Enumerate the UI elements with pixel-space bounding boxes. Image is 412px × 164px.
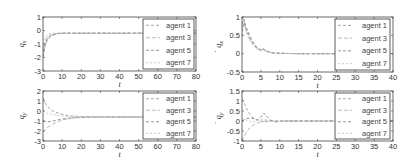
panel-qy: 01020304050607080210-1-2-3tqyagent 1agen… — [17, 87, 200, 159]
y-tick-label: -3 — [34, 67, 41, 76]
x-tick-label: 20 — [77, 142, 85, 151]
x-tick-label: 10 — [276, 142, 284, 151]
legend-entry: agent 1 — [362, 94, 387, 103]
legend-entry: agent 5 — [166, 46, 191, 55]
x-tick-label: 15 — [294, 142, 302, 151]
legend-entry: agent 1 — [362, 21, 387, 30]
x-axis-label: t — [118, 150, 121, 159]
y-tick-label: 1 — [37, 13, 41, 22]
panel-qy-dot: 05101520253035401.510.50-0.5-1tqy·agent … — [211, 87, 397, 159]
legend-entry: agent 3 — [362, 106, 387, 115]
legend-entry: agent 7 — [362, 129, 387, 138]
figure: 0102030405060708010-1-2-3tqxagent 1agent… — [0, 0, 412, 164]
x-tick-label: 35 — [370, 73, 378, 82]
x-tick-label: 0 — [240, 73, 244, 82]
y-tick-label: -1 — [34, 40, 41, 49]
y-tick-label: 2 — [37, 87, 41, 96]
derivative-dot: · — [211, 122, 220, 124]
y-tick-label: 0 — [236, 49, 240, 58]
x-axis-label: t — [316, 81, 319, 90]
legend: agent 1agent 3agent 5agent 7 — [335, 93, 390, 139]
x-tick-label: 70 — [173, 72, 181, 81]
x-tick-label: 60 — [154, 72, 162, 81]
x-axis-label: t — [316, 150, 319, 159]
x-tick-label: 40 — [389, 73, 397, 82]
x-tick-label: 10 — [58, 142, 66, 151]
x-tick-label: 5 — [259, 142, 263, 151]
y-tick-label: 1.5 — [230, 87, 240, 96]
x-tick-label: 20 — [77, 72, 85, 81]
y-tick-label: -2 — [34, 53, 41, 62]
legend-entry: agent 5 — [362, 46, 387, 55]
legend-entry: agent 1 — [166, 94, 191, 103]
legend-entry: agent 7 — [362, 59, 387, 68]
y-tick-label: 1 — [236, 97, 240, 106]
x-tick-label: 5 — [259, 73, 263, 82]
x-tick-label: 50 — [134, 142, 142, 151]
y-tick-label: 0 — [37, 107, 41, 116]
legend-entry: agent 1 — [166, 21, 191, 30]
y-tick-label: -1 — [233, 137, 240, 146]
x-tick-label: 0 — [41, 142, 45, 151]
x-tick-label: 60 — [154, 142, 162, 151]
derivative-dot: · — [211, 51, 220, 53]
y-axis-label: qy — [214, 112, 224, 119]
x-tick-label: 30 — [96, 72, 104, 81]
y-axis-label: qx — [17, 40, 27, 47]
y-tick-label: 0.5 — [230, 31, 240, 40]
legend: agent 1agent 3agent 5agent 7 — [143, 93, 194, 139]
legend: agent 1agent 3agent 5agent 7 — [335, 19, 390, 70]
legend-entry: agent 5 — [362, 117, 387, 126]
legend-entry: agent 5 — [166, 117, 191, 126]
y-tick-label: 1 — [37, 97, 41, 106]
x-tick-label: 40 — [389, 142, 397, 151]
y-tick-label: -2 — [34, 127, 41, 136]
legend-entry: agent 3 — [362, 34, 387, 43]
y-axis-label: qy — [17, 112, 27, 119]
y-tick-label: 1 — [236, 13, 240, 22]
x-tick-label: 10 — [58, 72, 66, 81]
y-tick-label: -0.5 — [227, 68, 240, 77]
legend: agent 1agent 3agent 5agent 7 — [143, 19, 194, 69]
x-tick-label: 30 — [96, 142, 104, 151]
x-tick-label: 0 — [41, 72, 45, 81]
x-tick-label: 35 — [370, 142, 378, 151]
legend-entry: agent 3 — [166, 33, 191, 42]
legend-entry: agent 3 — [166, 106, 191, 115]
legend-entry: agent 7 — [166, 58, 191, 67]
y-tick-label: 0 — [37, 26, 41, 35]
x-tick-label: 30 — [351, 142, 359, 151]
x-tick-label: 25 — [332, 73, 340, 82]
x-tick-label: 25 — [332, 142, 340, 151]
panel-qx-dot: 051015202530354010.50-0.5tqx·agent 1agen… — [211, 13, 397, 90]
y-tick-label: 0.5 — [230, 107, 240, 116]
x-tick-label: 10 — [276, 73, 284, 82]
x-tick-label: 15 — [294, 73, 302, 82]
panel-qx: 0102030405060708010-1-2-3tqxagent 1agent… — [17, 13, 200, 89]
x-tick-label: 30 — [351, 73, 359, 82]
x-tick-label: 80 — [192, 72, 200, 81]
x-tick-label: 80 — [192, 142, 200, 151]
legend-entry: agent 7 — [166, 129, 191, 138]
y-tick-label: -0.5 — [227, 127, 240, 136]
y-tick-label: -1 — [34, 117, 41, 126]
x-tick-label: 50 — [134, 72, 142, 81]
y-tick-label: 0 — [236, 117, 240, 126]
x-tick-label: 0 — [240, 142, 244, 151]
y-tick-label: -3 — [34, 137, 41, 146]
x-tick-label: 70 — [173, 142, 181, 151]
y-axis-label: qx — [214, 41, 224, 48]
x-axis-label: t — [118, 80, 121, 89]
